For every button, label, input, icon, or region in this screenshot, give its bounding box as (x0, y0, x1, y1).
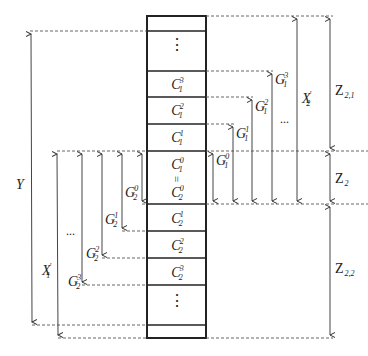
right-arrows (213, 19, 330, 335)
label-g1-3: G31 (275, 73, 287, 87)
cell-c2-1: C12 (148, 211, 206, 227)
cell-label: C31 (171, 77, 182, 92)
label-z22: Z2,2 (335, 262, 355, 276)
label-x2: X'2 (302, 92, 310, 106)
label-g2-3: G32 (68, 275, 80, 289)
label-g1-0: G01 (216, 154, 228, 168)
cell-center-equals: = (148, 173, 206, 185)
left-ellipsis: ... (66, 224, 75, 239)
cell-c2-3: C32 (148, 265, 206, 281)
cell-label: C12 (171, 211, 182, 226)
label-g2-2: G22 (86, 247, 98, 261)
cell-c2-2: C22 (148, 238, 206, 254)
label-g1-1: G11 (236, 127, 248, 141)
cell-c1-1: C11 (148, 130, 206, 146)
top-ellipsis: ⋮ (148, 42, 206, 48)
cell-label: C01 (171, 157, 182, 172)
equals-sign: = (171, 176, 183, 182)
label-y: Y (16, 178, 24, 192)
cell-center-bottom: C02 (148, 185, 206, 201)
cell-c1-2: C21 (148, 103, 206, 119)
label-x1: X'1 (42, 264, 50, 278)
vertical-ellipsis: ⋮ (169, 292, 185, 309)
cell-label: C32 (171, 265, 182, 280)
vertical-ellipsis: ⋮ (169, 36, 185, 53)
cell-label: C11 (171, 130, 182, 145)
label-z2: Z2 (335, 172, 349, 186)
y-arrow (31, 34, 32, 322)
label-z21: Z2,1 (335, 84, 355, 98)
cell-c1-3: C31 (148, 77, 206, 93)
bottom-ellipsis: ⋮ (148, 298, 206, 304)
cell-label: C22 (171, 238, 182, 253)
cell-center-top: C01 (148, 157, 206, 173)
x1-arrow (57, 154, 58, 335)
label-g1-2: G21 (255, 100, 267, 114)
cell-label: C02 (171, 185, 182, 200)
label-g2-1: G12 (105, 213, 117, 227)
right-ellipsis: ... (280, 112, 289, 127)
cell-label: C21 (171, 103, 182, 118)
label-g2-0: G02 (125, 186, 137, 200)
